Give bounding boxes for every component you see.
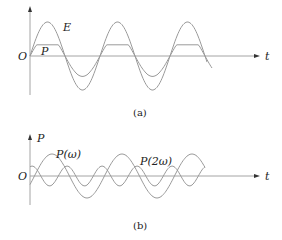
curve-P	[30, 45, 212, 77]
origin-label-b: O	[18, 170, 27, 183]
origin-label-a: O	[18, 50, 27, 63]
x-axis-arrow-a	[254, 54, 260, 58]
x-axis-arrow-b	[254, 174, 260, 178]
curve-label-P-omega: P(ω)	[55, 148, 81, 161]
curve-label-E: E	[62, 21, 71, 34]
y-axis-label-b: P	[36, 132, 45, 145]
panel-b: P O t P(ω) P(2ω) (b)	[18, 132, 270, 231]
figure: O t E P (a) P O t P(ω) P(2ω) (b)	[0, 0, 282, 240]
panel-a: O t E P (a)	[18, 6, 270, 118]
x-axis-label-b: t	[265, 170, 270, 183]
x-axis-label-a: t	[265, 50, 270, 63]
curve-label-P: P	[40, 45, 49, 58]
y-axis-arrow-b	[28, 134, 32, 140]
caption-b: (b)	[133, 220, 147, 231]
curve-label-P-2omega: P(2ω)	[139, 155, 172, 168]
y-axis-arrow-a	[28, 6, 32, 12]
caption-a: (a)	[133, 107, 147, 118]
